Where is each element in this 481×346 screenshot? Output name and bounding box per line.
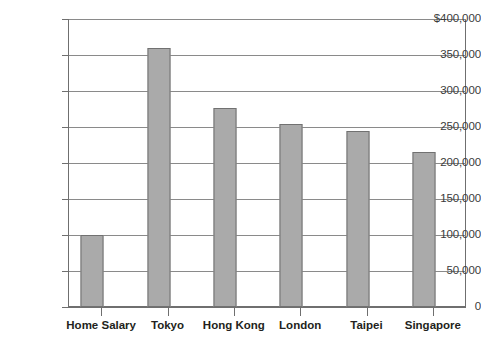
x-axis-tick (101, 307, 102, 316)
gridline (68, 91, 466, 92)
y-axis-tick-label: 250,000 (421, 121, 481, 133)
y-axis-tick (62, 91, 69, 92)
y-axis-tick (62, 199, 69, 200)
gridline (68, 235, 466, 236)
bar (81, 235, 104, 307)
y-axis-tick (62, 163, 69, 164)
x-axis-category-label: Taipei (350, 318, 382, 332)
gridline (68, 199, 466, 200)
y-axis-tick (62, 127, 69, 128)
x-axis-tick (433, 307, 434, 316)
x-axis-tick (234, 307, 235, 316)
y-axis-tick-label: 350,000 (421, 49, 481, 61)
x-axis-category-label: Tokyo (151, 318, 184, 332)
gridline (68, 19, 466, 20)
y-axis-tick (62, 19, 69, 20)
y-axis-tick (62, 271, 69, 272)
y-axis-tick (62, 55, 69, 56)
y-axis-tick-label: $400,000 (421, 13, 481, 25)
bar (346, 131, 369, 307)
bar (412, 152, 435, 307)
x-axis-category-label: Hong Kong (203, 318, 265, 332)
bar (213, 108, 236, 307)
bar (147, 48, 170, 307)
x-axis-tick (168, 307, 169, 316)
gridline (68, 55, 466, 56)
x-axis-line (68, 307, 466, 308)
x-axis-category-label: Singapore (405, 318, 461, 332)
gridline (68, 127, 466, 128)
bar-chart: 050,000100,000150,000200,000250,000300,0… (0, 0, 481, 346)
gridline (68, 271, 466, 272)
bar (280, 124, 303, 307)
gridline (68, 163, 466, 164)
x-axis-tick (300, 307, 301, 316)
x-axis-category-label: London (279, 318, 321, 332)
x-axis-tick (367, 307, 368, 316)
y-axis-tick-label: 300,000 (421, 85, 481, 97)
x-axis-category-label: Home Salary (66, 318, 136, 332)
y-axis-tick (62, 235, 69, 236)
